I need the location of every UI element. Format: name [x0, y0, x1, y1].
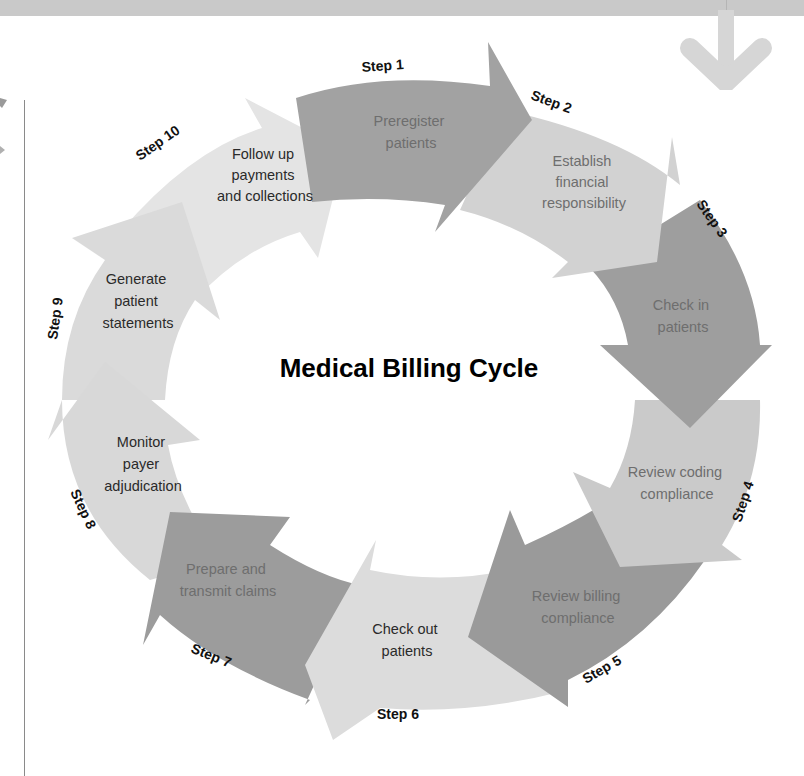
step-label-10: Step 10	[133, 122, 183, 164]
billing-cycle-diagram: Preregister patients Establish financial…	[0, 0, 804, 776]
step-label-2: Step 2	[529, 87, 574, 116]
diagram-title: Medical Billing Cycle	[280, 353, 539, 383]
step-label-1: Step 1	[361, 56, 404, 75]
step-label-9: Step 9	[44, 296, 66, 340]
step-label-6: Step 6	[377, 706, 419, 722]
